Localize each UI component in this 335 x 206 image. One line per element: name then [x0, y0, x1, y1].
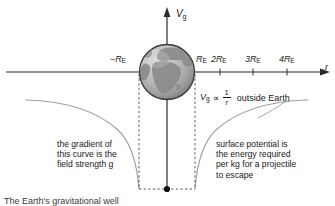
potential-equation-annotation: Vg ∝ 1 r outside Earth [200, 89, 290, 106]
r-axis-label: r [325, 63, 328, 73]
tick-label-4re: 4RE [279, 55, 295, 66]
one-over-r-fraction: 1 r [223, 89, 231, 106]
gravitational-well-figure: Vg r −RE RE 2RE 3RE 4RE Vg ∝ 1 r outside… [0, 0, 335, 206]
tick-label-re: RE [196, 55, 207, 66]
well-bottom-dot [164, 186, 170, 192]
tick-label-minus-re: −RE [110, 55, 126, 66]
equation-variable: Vg [200, 92, 210, 102]
left-caption: the gradient of this curve is the field … [57, 139, 117, 170]
vg-axis-label: Vg [176, 9, 186, 21]
outside-earth-text: outside Earth [237, 93, 290, 103]
tick-label-2re: 2RE [211, 55, 227, 66]
tick-label-3re: 3RE [245, 55, 261, 66]
proportional-symbol: ∝ [213, 93, 219, 103]
right-caption: surface potential is the energy required… [216, 139, 296, 180]
figure-title: The Earth's gravitational well [4, 196, 119, 206]
earth-globe [140, 45, 195, 100]
